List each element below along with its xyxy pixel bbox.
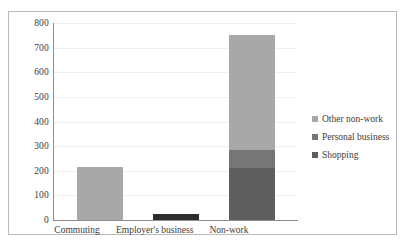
plot-area bbox=[54, 23, 297, 220]
legend-item-shopping[interactable]: Shopping bbox=[312, 147, 402, 162]
chart-legend: Other non-work Personal business Shoppin… bbox=[312, 111, 402, 165]
bar-segment-other-non-work bbox=[229, 35, 275, 150]
chart-frame: 800 700 600 500 400 300 200 100 0 bbox=[8, 11, 397, 235]
y-tick-label: 500 bbox=[11, 93, 49, 103]
legend-label: Shopping bbox=[322, 150, 358, 160]
bar-stack bbox=[229, 35, 275, 220]
legend-item-other-non-work[interactable]: Other non-work bbox=[312, 111, 402, 126]
y-tick-label: 600 bbox=[11, 68, 49, 78]
bar-segment-personal-business bbox=[229, 150, 275, 169]
x-tick-label-commuting: Commuting bbox=[40, 225, 114, 236]
bar-stack bbox=[77, 167, 123, 220]
x-tick-label-employers-business: Employer's business bbox=[116, 225, 190, 236]
y-axis-tick-labels: 800 700 600 500 400 300 200 100 0 bbox=[9, 23, 49, 221]
legend-swatch-icon bbox=[312, 116, 318, 122]
y-tick-label: 100 bbox=[11, 191, 49, 201]
y-tick-label: 300 bbox=[11, 142, 49, 152]
legend-item-personal-business[interactable]: Personal business bbox=[312, 129, 402, 144]
y-tick-label: 700 bbox=[11, 44, 49, 54]
legend-label: Other non-work bbox=[322, 114, 383, 124]
gridline bbox=[54, 23, 297, 24]
x-tick-label-non-work: Non-work bbox=[192, 225, 266, 236]
legend-swatch-icon bbox=[312, 134, 318, 140]
x-axis-line bbox=[53, 220, 298, 221]
y-tick-label: 200 bbox=[11, 167, 49, 177]
legend-label: Personal business bbox=[322, 132, 389, 142]
y-tick-label: 400 bbox=[11, 118, 49, 128]
bar-segment-shopping bbox=[229, 168, 275, 220]
bar-stack bbox=[153, 214, 199, 220]
bar-segment-shopping bbox=[153, 214, 199, 220]
legend-swatch-icon bbox=[312, 152, 318, 158]
bar-segment-other-non-work bbox=[77, 167, 123, 220]
x-axis-tick-labels: Commuting Employer's business Non-work bbox=[54, 225, 297, 245]
y-tick-label: 800 bbox=[11, 19, 49, 29]
